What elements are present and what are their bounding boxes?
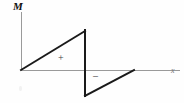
positive-ramp-segment (21, 31, 85, 70)
y-axis-label: M (13, 1, 23, 12)
scan-artifact (19, 86, 22, 91)
moment-diagram-canvas (0, 0, 184, 103)
negative-region-label: – (93, 71, 98, 81)
positive-region-label: + (58, 53, 64, 63)
moment-diagram-figure: M x + – (0, 0, 184, 103)
x-axis-label: x (171, 67, 175, 75)
